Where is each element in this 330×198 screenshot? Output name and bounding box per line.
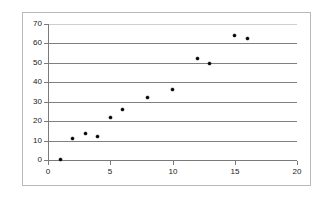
x-tick-0 xyxy=(48,161,49,165)
data-point xyxy=(84,132,87,135)
y-tick-label-60: 60 xyxy=(18,39,42,47)
y-tick-label-20: 20 xyxy=(18,117,42,125)
x-tick-label-15: 15 xyxy=(225,168,245,176)
x-tick-10 xyxy=(173,161,174,165)
data-point xyxy=(121,108,124,111)
x-tick-5 xyxy=(110,161,111,165)
x-tick-label-20: 20 xyxy=(287,168,307,176)
y-tick-label-40: 40 xyxy=(18,78,42,86)
data-point xyxy=(208,62,211,65)
y-tick-label-70: 70 xyxy=(18,20,42,28)
data-point xyxy=(233,34,236,37)
data-point xyxy=(96,135,99,138)
x-tick-15 xyxy=(235,161,236,165)
x-tick-label-5: 5 xyxy=(100,168,120,176)
data-point xyxy=(59,158,62,161)
y-tick-label-10: 10 xyxy=(18,137,42,145)
data-point xyxy=(146,96,149,99)
x-tick-label-10: 10 xyxy=(163,168,183,176)
y-tick-label-50: 50 xyxy=(18,59,42,67)
y-tick-label-0: 0 xyxy=(18,156,42,164)
plot-area xyxy=(48,24,297,160)
data-point xyxy=(196,57,199,60)
scatter-chart: 010203040506070 05101520 xyxy=(0,0,330,198)
x-tick-label-0: 0 xyxy=(38,168,58,176)
data-point xyxy=(109,116,112,119)
y-tick-label-30: 30 xyxy=(18,98,42,106)
data-point xyxy=(71,137,74,140)
x-tick-20 xyxy=(297,161,298,165)
data-point xyxy=(171,88,174,91)
data-point xyxy=(246,37,249,40)
